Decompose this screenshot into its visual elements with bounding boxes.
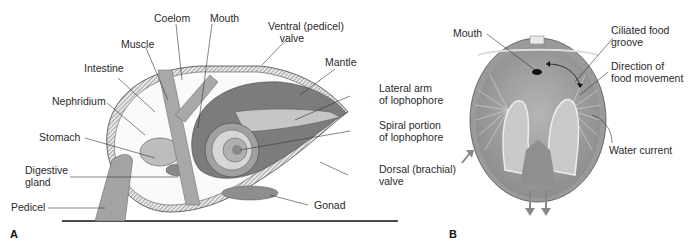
label-dorsal-valve: Dorsal (brachial) valve [379, 163, 456, 187]
panel-a-illustration [62, 66, 398, 221]
label-lateral-arm: Lateral arm of lophophore [379, 82, 443, 106]
label-mantle: Mantle [325, 56, 357, 68]
label-direction-food: Direction of food movement [611, 60, 683, 84]
label-ciliated-groove: Ciliated food groove [611, 24, 669, 48]
label-gonad: Gonad [314, 199, 346, 211]
label-digestive-gland: Digestive gland [25, 164, 68, 188]
label-stomach: Stomach [39, 131, 80, 143]
label-ventral-valve: Ventral (pedicel) valve [268, 20, 344, 44]
label-intestine: Intestine [84, 62, 124, 74]
label-mouth-a: Mouth [210, 12, 239, 24]
panel-letter-a: A [10, 228, 18, 240]
label-pedicel: Pedicel [11, 201, 45, 213]
label-water-current: Water current [609, 144, 672, 156]
brachiopod-diagram [0, 0, 695, 247]
label-mouth-b: Mouth [453, 27, 482, 39]
label-muscle: Muscle [121, 38, 154, 50]
panel-letter-b: B [449, 228, 457, 240]
label-spiral-portion: Spiral portion of lophophore [379, 119, 443, 143]
panel-b-illustration [462, 36, 606, 216]
label-coelom: Coelom [154, 12, 190, 24]
label-nephridium: Nephridium [52, 95, 106, 107]
